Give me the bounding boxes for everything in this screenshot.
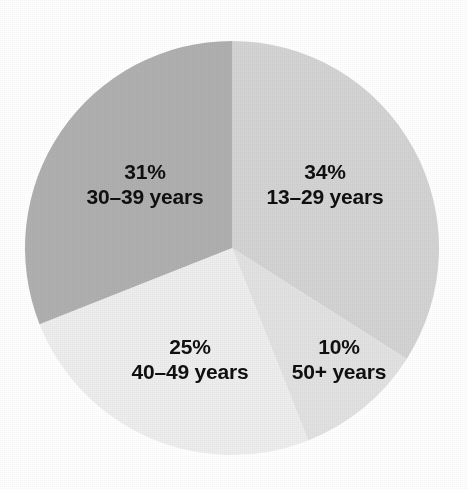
- pie-label-13-29: 34% 13–29 years: [267, 160, 384, 210]
- pie-chart-figure: 34% 13–29 years 10% 50+ years 25% 40–49 …: [0, 0, 468, 489]
- pie-chart-svg: [0, 0, 468, 489]
- pie-label-category: 50+ years: [292, 360, 387, 385]
- pie-label-50-plus: 10% 50+ years: [292, 335, 387, 385]
- pie-slices: [25, 41, 439, 455]
- pie-label-category: 40–49 years: [132, 360, 249, 385]
- pie-label-percent: 34%: [267, 160, 384, 185]
- pie-label-percent: 10%: [292, 335, 387, 360]
- pie-label-category: 30–39 years: [87, 185, 204, 210]
- pie-label-category: 13–29 years: [267, 185, 384, 210]
- pie-label-percent: 25%: [132, 335, 249, 360]
- pie-label-percent: 31%: [87, 160, 204, 185]
- pie-label-30-39: 31% 30–39 years: [87, 160, 204, 210]
- pie-label-40-49: 25% 40–49 years: [132, 335, 249, 385]
